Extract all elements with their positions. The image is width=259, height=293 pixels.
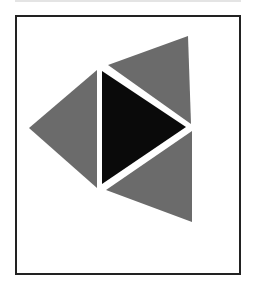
left-triangle: [29, 70, 97, 188]
triangle-figure: [0, 0, 259, 293]
